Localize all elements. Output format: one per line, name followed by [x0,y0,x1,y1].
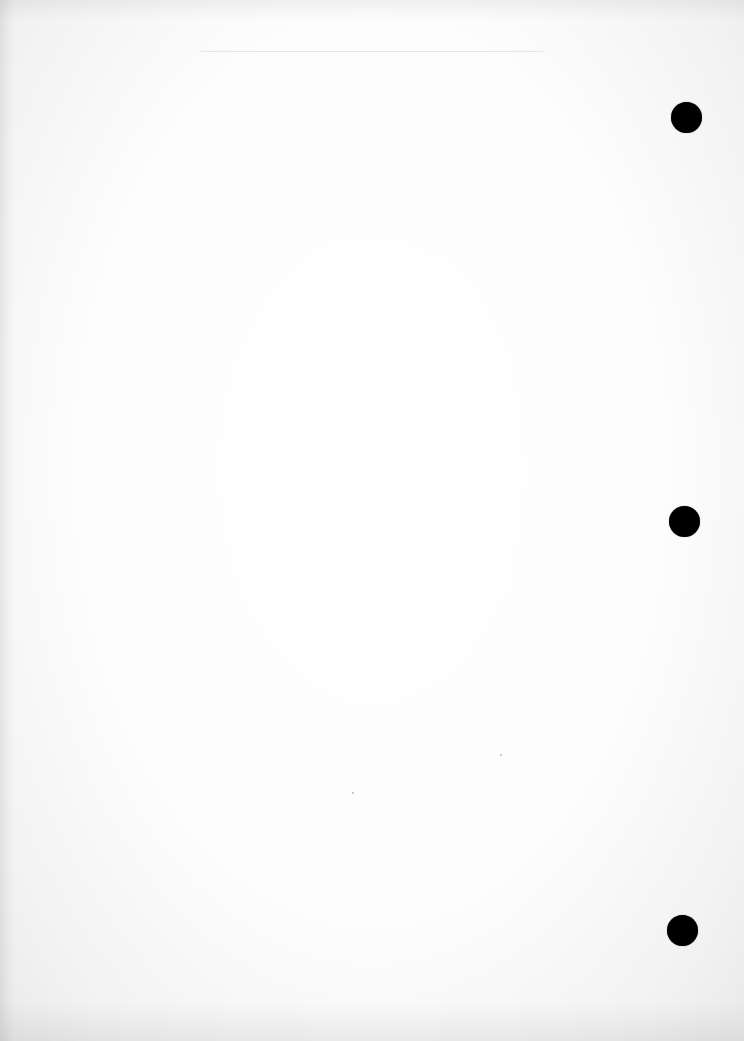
punch-hole-middle [669,506,700,537]
top-edge-shadow [0,0,744,20]
scan-speck [352,792,354,794]
faint-top-rule [200,51,545,52]
left-edge-shadow [0,0,14,1041]
punch-hole-top [671,102,702,133]
punch-hole-bottom [667,915,698,946]
scan-speck [500,754,502,756]
bottom-edge-shadow [0,1001,744,1041]
scanned-page [0,0,744,1041]
